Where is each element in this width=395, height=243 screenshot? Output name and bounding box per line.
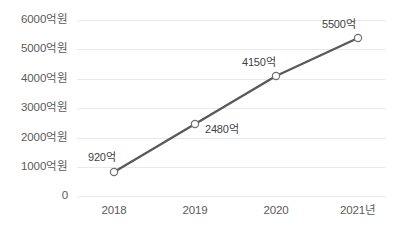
data-point-label: 2480억 <box>205 124 238 135</box>
y-axis-tick-label: 6000억원 <box>21 14 68 26</box>
y-axis-tick-label: 5000억원 <box>21 43 68 55</box>
data-point-label: 4150억 <box>242 57 275 68</box>
y-axis-tick-label: 1000억원 <box>21 161 68 173</box>
y-axis-tick-label: 0 <box>62 190 68 202</box>
y-axis-tick-label: 3000억원 <box>21 102 68 114</box>
y-axis-tick-label: 4000억원 <box>21 73 68 85</box>
data-point-marker <box>110 168 117 175</box>
data-point-markers <box>110 34 361 175</box>
x-axis-tick-label: 2020 <box>263 205 288 217</box>
x-axis-tick-label: 2019 <box>182 205 207 217</box>
line-chart: 01000억원2000억원3000억원4000억원5000억원6000억원 20… <box>0 0 395 243</box>
series-line <box>114 38 358 172</box>
x-axis-tick-label: 2018 <box>101 205 126 217</box>
data-point-marker <box>191 120 198 127</box>
series-polyline <box>114 38 358 172</box>
data-point-marker <box>272 72 279 79</box>
x-axis-tick-label: 2021년 <box>340 205 376 217</box>
data-point-marker <box>354 34 361 41</box>
y-axis-tick-label: 2000억원 <box>21 132 68 144</box>
data-point-label: 920억 <box>88 152 116 163</box>
data-point-label: 5500억 <box>322 19 355 30</box>
